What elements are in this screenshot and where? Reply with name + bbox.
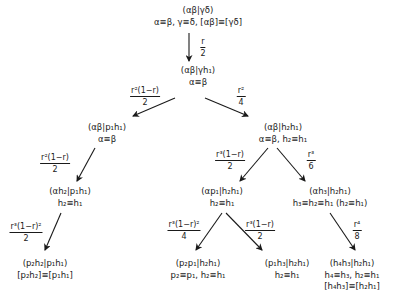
node-label: (p₁h₃|h₂h₁) xyxy=(265,258,310,270)
numerator: r²(1−r) xyxy=(40,153,70,164)
numerator: r³(1−r) xyxy=(215,150,245,161)
edge-label-n2-n4: r²(1−r) 2 xyxy=(40,153,70,174)
numerator: r²(1−r) xyxy=(130,86,160,97)
numerator: r xyxy=(200,37,205,48)
edge-label-n5-n8: r³(1−r)² 4 xyxy=(167,220,200,241)
node-label: (αh₂|p₁h₁) xyxy=(49,186,91,198)
node-condition: h₄≡h₃, h₂≡h₁ xyxy=(324,270,380,282)
edge-label-root-n1: r 2 xyxy=(200,37,205,58)
node-condition: α≡β xyxy=(88,134,126,146)
node-condition: h₂≡h₁ xyxy=(201,198,243,210)
edge-label-n4-n7: r³(1−r)² 2 xyxy=(9,222,42,243)
denominator: 2 xyxy=(40,164,70,174)
denominator: 2 xyxy=(215,161,245,171)
node-n1: (αβ|γh₁) α≡β xyxy=(181,65,215,88)
node-label: (p₂p₁|h₂h₁) xyxy=(171,258,226,270)
node-label: (αp₁|h₂h₁) xyxy=(201,186,243,198)
node-label: (p₂h₂|p₁h₁) xyxy=(17,258,73,270)
node-n10: (h₄h₃|h₂h₁) h₄≡h₃, h₂≡h₁ [h₄h₃]≡[h₂h₁] xyxy=(324,258,380,293)
numerator: r³(1−r)² xyxy=(167,220,200,231)
edge-label-n3-n5: r³(1−r) 2 xyxy=(215,150,245,171)
numerator: r⁴ xyxy=(353,220,362,231)
numerator: r³(1−r) xyxy=(245,220,275,231)
node-condition: α≡β, h₂≡h₁ xyxy=(259,134,307,146)
node-condition: [p₂h₂]≡[p₁h₁] xyxy=(17,270,73,282)
node-condition: h₂≡h₁ xyxy=(49,198,91,210)
edge-label-n6-n10: r⁴ 8 xyxy=(353,220,362,241)
denominator: 4 xyxy=(237,97,246,107)
node-label: (αh₃|h₂h₁) xyxy=(293,186,368,198)
node-label: (αβ|p₁h₁) xyxy=(88,122,126,134)
edges-layer xyxy=(0,0,398,302)
node-n9: (p₁h₃|h₂h₁) h₂≡h₁ xyxy=(265,258,310,281)
node-condition: p₂≡p₁, h₂≡h₁ xyxy=(171,270,226,282)
node-condition: h₃≡h₂≡h₁ (h₂≡h₁) xyxy=(293,198,368,210)
node-label: (αβ|h₂h₁) xyxy=(259,122,307,134)
arrow-edge-n2-n4 xyxy=(77,148,95,181)
numerator: r³ xyxy=(307,150,316,161)
denominator: 8 xyxy=(353,231,362,241)
denominator: 2 xyxy=(200,48,205,58)
edge-label-n1-n3: r² 4 xyxy=(237,86,246,107)
node-label: (αβ|γh₁) xyxy=(181,65,215,77)
arrow-edge-n4-n7 xyxy=(45,213,61,250)
denominator: 6 xyxy=(307,161,316,171)
node-n4: (αh₂|p₁h₁) h₂≡h₁ xyxy=(49,186,91,209)
node-root: (αβ|γδ) α≡β, γ≡δ, [αβ]≡[γδ] xyxy=(154,5,242,28)
node-n6: (αh₃|h₂h₁) h₃≡h₂≡h₁ (h₂≡h₁) xyxy=(293,186,368,209)
node-condition: α≡β xyxy=(181,77,215,89)
node-label: (h₄h₃|h₂h₁) xyxy=(324,258,380,270)
node-n5: (αp₁|h₂h₁) h₂≡h₁ xyxy=(201,186,243,209)
node-n8: (p₂p₁|h₂h₁) p₂≡p₁, h₂≡h₁ xyxy=(171,258,226,281)
node-label: (αβ|γδ) xyxy=(154,5,242,17)
edge-label-n1-n2: r²(1−r) 2 xyxy=(130,86,160,107)
numerator: r³(1−r)² xyxy=(9,222,42,233)
node-n3: (αβ|h₂h₁) α≡β, h₂≡h₁ xyxy=(259,122,307,145)
node-condition: h₂≡h₁ xyxy=(265,270,310,282)
numerator: r² xyxy=(237,86,246,97)
arrow-edge-n3-n6 xyxy=(277,148,305,181)
node-n7: (p₂h₂|p₁h₁) [p₂h₂]≡[p₁h₁] xyxy=(17,258,73,281)
node-condition: α≡β, γ≡δ, [αβ]≡[γδ] xyxy=(154,17,242,29)
probability-tree-diagram: (αβ|γδ) α≡β, γ≡δ, [αβ]≡[γδ] (αβ|γh₁) α≡β… xyxy=(0,0,398,302)
denominator: 2 xyxy=(9,233,42,243)
denominator: 4 xyxy=(167,231,200,241)
denominator: 2 xyxy=(130,97,160,107)
arrow-edge-n6-n10 xyxy=(330,213,355,250)
node-condition-extra: [h₄h₃]≡[h₂h₁] xyxy=(324,281,380,293)
node-n2: (αβ|p₁h₁) α≡β xyxy=(88,122,126,145)
edge-label-n5-n9: r³(1−r) 2 xyxy=(245,220,275,241)
denominator: 2 xyxy=(245,231,275,241)
edge-label-n3-n6: r³ 6 xyxy=(307,150,316,171)
